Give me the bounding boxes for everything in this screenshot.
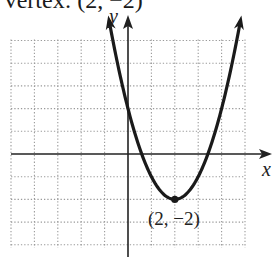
graph: x y (2, −2): [0, 0, 275, 257]
axes: [11, 15, 272, 257]
vertex-label: (2, −2): [148, 208, 200, 230]
x-axis-label: x: [261, 158, 271, 180]
y-axis-label: y: [107, 5, 118, 28]
vertex-point: [171, 196, 178, 203]
